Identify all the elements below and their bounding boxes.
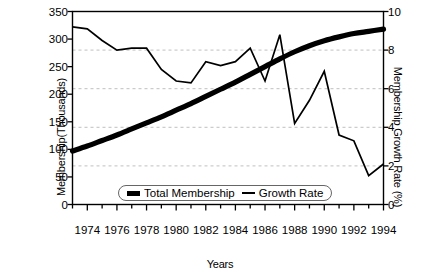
series-line-total-membership (73, 29, 384, 151)
series-line-growth-rate (73, 27, 384, 176)
tick-marks (68, 12, 389, 211)
plot-area (0, 0, 440, 273)
legend-item-total-membership: Total Membership (127, 187, 235, 199)
legend-swatch-thick-bar-icon (127, 191, 140, 196)
gridlines (73, 50, 384, 166)
chart-container: Membership(Thousands) Membership Growth … (0, 0, 440, 273)
plot-frame (73, 12, 384, 205)
legend-swatch-thin-line-icon (242, 192, 255, 194)
legend-label-growth-rate: Growth Rate (259, 187, 324, 199)
chart-legend: Total Membership Growth Rate (118, 185, 332, 201)
legend-item-growth-rate: Growth Rate (242, 187, 324, 199)
legend-label-total-membership: Total Membership (144, 187, 235, 199)
